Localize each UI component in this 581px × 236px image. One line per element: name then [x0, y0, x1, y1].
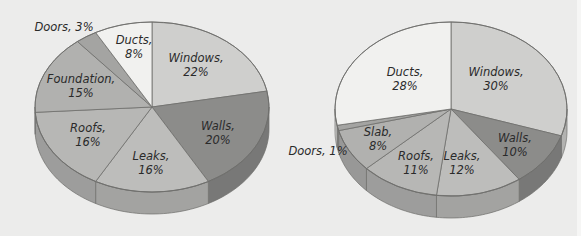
pie-charts-canvas: Windows,22%Walls,20%Leaks,16%Roofs,16%Fo…	[0, 0, 581, 236]
page-edge	[577, 0, 581, 236]
chart-stage: Windows,22%Walls,20%Leaks,16%Roofs,16%Fo…	[0, 0, 581, 236]
slice-label-doors: Doors, 1%	[288, 144, 347, 158]
pie-chart-right: Windows,30%Walls,10%Leaks,12%Roofs,11%Sl…	[288, 22, 567, 218]
slice-label-roofs: Roofs,16%	[70, 121, 106, 149]
slice-label-walls: Walls,10%	[498, 131, 532, 159]
pie-chart-left: Windows,22%Walls,20%Leaks,16%Roofs,16%Fo…	[34, 20, 269, 214]
slice-label-roofs: Roofs,11%	[398, 149, 434, 177]
slice-label-doors: Doors, 3%	[34, 20, 93, 34]
slice-label-walls: Walls,20%	[201, 119, 235, 147]
